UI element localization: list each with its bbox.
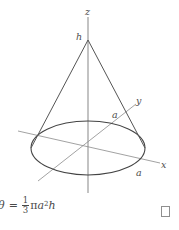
page-root: z h y a x a θ = 1 3 π a 2 h: [0, 0, 179, 230]
fraction-denominator: 3: [22, 206, 29, 215]
height-symbol: h: [49, 200, 56, 211]
volume-formula: θ = 1 3 π a 2 h: [0, 196, 56, 215]
pi-symbol: π: [30, 200, 37, 211]
cone-diagram-svg: z h y a x a: [0, 0, 179, 196]
cone-left-edge: [31, 40, 88, 148]
height-label: h: [76, 31, 82, 42]
cone-diagram: z h y a x a: [0, 0, 179, 196]
fraction-numerator: 1: [22, 196, 29, 205]
radius-x-label: a: [136, 167, 142, 178]
y-axis-label: y: [135, 95, 142, 106]
formula-equals-sign: =: [9, 200, 18, 211]
radius-y-label: a: [112, 109, 118, 120]
radius-exponent: 2: [44, 201, 48, 208]
formula-fraction: 1 3: [22, 196, 29, 215]
formula-row: θ = 1 3 π a 2 h: [0, 193, 179, 230]
qed-square-icon: [161, 206, 170, 217]
cone-right-edge: [88, 40, 145, 148]
z-axis-label: z: [84, 6, 91, 17]
formula-rhs: π a 2 h: [30, 200, 55, 211]
formula-lhs-symbol: θ: [0, 200, 5, 211]
x-axis-label: x: [161, 159, 167, 170]
